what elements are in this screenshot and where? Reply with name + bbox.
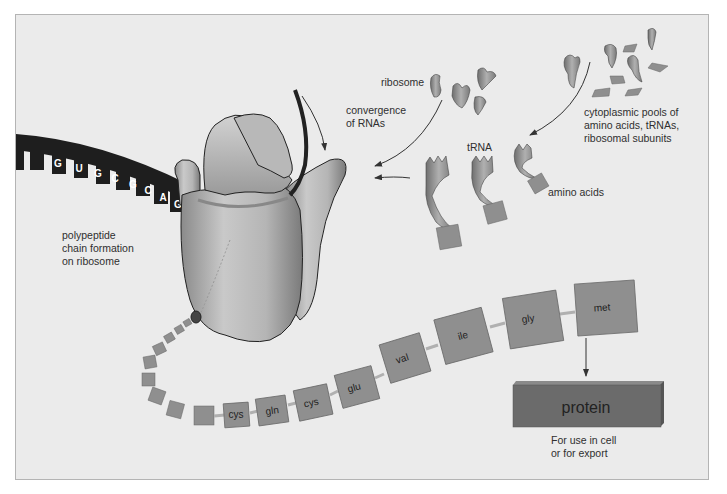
cytoplasmic-line-1: cytoplasmic pools of — [584, 106, 679, 119]
base-6: C — [144, 185, 151, 196]
cytoplasmic-line-2: amino acids, tRNAs, — [584, 119, 679, 132]
residue-box: cys — [293, 384, 333, 421]
use-label: For use in cell or for export — [551, 434, 616, 460]
polypeptide-line-2: chain formation — [62, 242, 134, 255]
residue-box: gly — [502, 290, 563, 349]
ribosome-label: ribosome — [381, 76, 424, 89]
charged-trnas — [426, 144, 549, 250]
base-4: C — [111, 173, 118, 184]
ribosomal-subunits — [430, 68, 496, 115]
ribosome — [175, 114, 346, 342]
svg-text:cys: cys — [229, 409, 244, 420]
cytoplasmic-line-3: ribosomal subunits — [584, 132, 679, 145]
base-2: U — [75, 163, 82, 174]
base-3: G — [94, 168, 102, 179]
polypeptide-beads — [142, 318, 214, 425]
residue-box: met — [574, 280, 637, 336]
svg-text:gly: gly — [521, 312, 535, 325]
residue-box: val — [379, 333, 431, 384]
protein-bar: protein — [513, 381, 664, 427]
convergence-line-1: convergence — [346, 104, 406, 117]
mrna-strand: G U G C G C A G — [16, 134, 190, 212]
polypeptide-label: polypeptide chain formation on ribosome — [62, 229, 134, 268]
base-7: A — [159, 192, 166, 203]
use-line-2: or for export — [551, 447, 616, 460]
amino-acid-pool — [592, 44, 668, 97]
svg-text:met: met — [593, 301, 611, 313]
polypeptide-line-1: polypeptide — [62, 229, 134, 242]
polypeptide-line-3: on ribosome — [62, 255, 134, 268]
protein-label: protein — [562, 399, 611, 416]
convergence-line-2: of RNAs — [346, 117, 406, 130]
residue-box: glu — [334, 366, 380, 409]
svg-text:gln: gln — [265, 404, 280, 417]
trna-pool — [564, 28, 656, 88]
amino-acids-label: amino acids — [548, 186, 604, 199]
base-5: G — [129, 179, 137, 190]
trna-label: tRNA — [467, 141, 492, 154]
residue-box: gln — [255, 395, 288, 426]
residue-box: cys — [223, 402, 250, 428]
residue-box: ile — [434, 307, 493, 364]
cytoplasmic-pools-label: cytoplasmic pools of amino acids, tRNAs,… — [584, 106, 679, 145]
use-line-1: For use in cell — [551, 434, 616, 447]
convergence-label: convergence of RNAs — [346, 104, 406, 130]
base-1: G — [54, 158, 62, 169]
